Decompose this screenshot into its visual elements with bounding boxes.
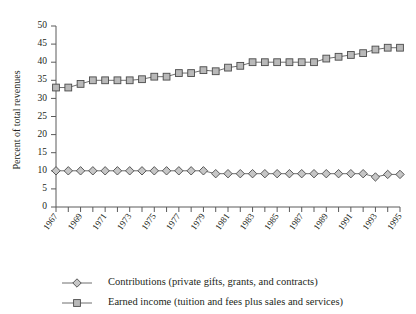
series-2 <box>53 44 404 91</box>
data-point-marker <box>310 169 318 177</box>
data-point-marker <box>335 53 342 60</box>
data-point-marker <box>126 167 134 175</box>
y-tick-label: 45 <box>38 38 48 48</box>
data-point-marker <box>334 169 342 177</box>
data-point-marker <box>162 167 170 175</box>
x-tick-label: 1983 <box>238 211 257 232</box>
data-point-marker <box>114 77 121 84</box>
legend-label: Contributions (private gifts, grants, an… <box>108 276 318 288</box>
data-point-marker <box>396 170 404 178</box>
data-point-marker <box>212 169 220 177</box>
y-tick-label: 40 <box>38 56 48 66</box>
data-point-marker <box>200 67 207 74</box>
data-point-marker <box>175 70 182 77</box>
x-tick-label: 1989 <box>311 211 330 232</box>
data-point-marker <box>261 59 268 66</box>
chart-legend: Contributions (private gifts, grants, an… <box>62 276 344 308</box>
data-point-marker <box>163 73 170 80</box>
data-point-marker <box>224 169 232 177</box>
data-point-marker <box>248 169 256 177</box>
data-point-marker <box>311 59 318 66</box>
data-point-marker <box>89 167 97 175</box>
series-plot-area <box>52 44 404 181</box>
data-point-marker <box>347 169 355 177</box>
x-tick-label: 1991 <box>336 211 355 231</box>
data-point-marker <box>237 62 244 69</box>
x-tick-label: 1969 <box>66 211 85 232</box>
y-axis-title-label: Percent of total revenues <box>11 70 22 169</box>
y-axis-ticks: 05101520253035404550 <box>38 20 57 211</box>
data-point-marker <box>199 167 207 175</box>
data-point-marker <box>53 84 60 91</box>
x-tick-label: 1975 <box>139 211 158 232</box>
series-1 <box>52 167 404 182</box>
data-point-marker <box>397 44 404 51</box>
x-tick-label: 1987 <box>287 211 306 232</box>
legend-item-1: Contributions (private gifts, grants, an… <box>62 276 318 288</box>
y-axis-title: Percent of total revenues <box>11 70 22 169</box>
data-point-marker <box>274 59 281 66</box>
data-point-marker <box>285 169 293 177</box>
data-point-marker <box>225 64 232 71</box>
data-point-marker <box>126 77 133 84</box>
data-point-marker <box>101 167 109 175</box>
data-point-marker <box>359 169 367 177</box>
data-point-marker <box>286 59 293 66</box>
data-point-marker <box>188 70 195 77</box>
x-tick-label: 1971 <box>90 211 109 231</box>
data-point-marker <box>371 173 379 181</box>
data-point-marker <box>261 169 269 177</box>
data-point-marker <box>347 52 354 59</box>
x-tick-label: 1973 <box>115 211 134 232</box>
data-point-marker <box>77 81 84 88</box>
legend-label: Earned income (tuition and fees plus sal… <box>108 296 344 308</box>
x-axis-ticks <box>56 207 400 212</box>
data-point-marker <box>139 76 146 83</box>
data-point-marker <box>236 169 244 177</box>
legend-marker-square <box>74 300 81 307</box>
data-point-marker <box>323 55 330 62</box>
legend-item-2: Earned income (tuition and fees plus sal… <box>62 296 344 308</box>
data-point-marker <box>113 167 121 175</box>
data-point-marker <box>384 44 391 51</box>
data-point-marker <box>372 46 379 53</box>
data-point-marker <box>102 77 109 84</box>
x-tick-label: 1981 <box>213 211 232 231</box>
data-point-marker <box>64 167 72 175</box>
data-point-marker <box>298 169 306 177</box>
y-tick-label: 50 <box>38 20 48 30</box>
data-point-marker <box>89 77 96 84</box>
data-point-marker <box>175 167 183 175</box>
legend-marker-diamond <box>73 279 81 287</box>
y-tick-label: 30 <box>38 93 48 103</box>
data-point-marker <box>52 167 60 175</box>
x-tick-label: 1967 <box>41 211 60 232</box>
data-point-marker <box>150 167 158 175</box>
data-point-marker <box>212 68 219 75</box>
x-tick-label: 1979 <box>189 211 208 232</box>
y-tick-label: 20 <box>38 129 48 139</box>
x-tick-label: 1993 <box>361 211 380 232</box>
x-tick-label: 1977 <box>164 211 183 232</box>
data-point-marker <box>360 50 367 57</box>
y-tick-label: 0 <box>42 201 47 211</box>
y-tick-label: 15 <box>38 147 48 157</box>
data-point-marker <box>298 59 305 66</box>
data-point-marker <box>249 59 256 66</box>
y-tick-label: 5 <box>42 183 47 193</box>
y-tick-label: 25 <box>38 111 48 121</box>
data-point-marker <box>138 167 146 175</box>
x-tick-label: 1985 <box>262 211 281 232</box>
x-axis-tick-labels: 1967196919711973197519771979198119831985… <box>41 211 404 232</box>
line-chart: Percent of total revenues 05101520253035… <box>0 0 416 314</box>
data-point-marker <box>187 167 195 175</box>
data-point-marker <box>384 170 392 178</box>
x-tick-label: 1995 <box>385 211 404 232</box>
y-tick-label: 10 <box>38 165 48 175</box>
y-tick-label: 35 <box>38 74 48 84</box>
data-point-marker <box>76 167 84 175</box>
data-point-marker <box>322 169 330 177</box>
data-point-marker <box>65 84 72 91</box>
chart-container: Percent of total revenues 05101520253035… <box>0 0 416 314</box>
data-point-marker <box>151 73 158 80</box>
